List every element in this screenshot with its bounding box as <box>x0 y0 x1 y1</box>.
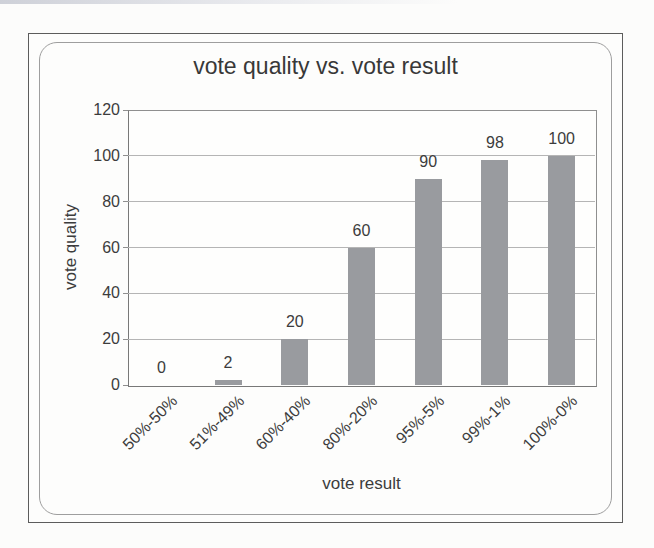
x-axis-title: vote result <box>128 474 595 494</box>
plot-area <box>128 110 597 387</box>
y-axis-title: vote quality <box>61 110 81 385</box>
scan-artifact-strip <box>0 0 458 4</box>
scanned-figure-page: vote quality vs. vote result vote qualit… <box>0 0 654 548</box>
chart-title: vote quality vs. vote result <box>39 53 612 80</box>
